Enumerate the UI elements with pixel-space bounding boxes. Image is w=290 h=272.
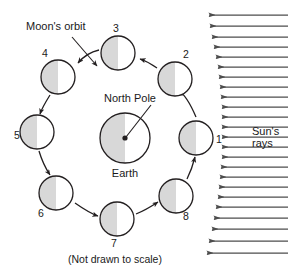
moon-number-label-1: 1 — [216, 133, 222, 145]
earth-label: Earth — [112, 167, 138, 179]
moon-number-label-2: 2 — [183, 48, 189, 60]
earth-shaded-half — [100, 113, 125, 163]
moon-shaded-half-6 — [39, 176, 56, 210]
moon-number-label-7: 7 — [111, 237, 117, 249]
orbit-arrow-2-to-3 — [140, 59, 157, 68]
moon-position-5: 5 — [14, 115, 54, 149]
orbit-arrow-4-to-5 — [40, 95, 50, 114]
suns-rays-label-line1: Sun's — [252, 125, 280, 137]
not-to-scale-note: (Not drawn to scale) — [68, 253, 162, 265]
moon-position-3: 3 — [101, 22, 135, 70]
diagram-canvas: 12345678 Moon's orbit North Pole Earth S… — [0, 0, 290, 272]
moon-number-label-6: 6 — [38, 207, 44, 219]
orbit-arrow-8-to-1 — [187, 157, 195, 179]
moon-shaded-half-3 — [101, 36, 118, 70]
moon-shaded-half-4 — [41, 60, 58, 94]
moon-shaded-half-7 — [100, 202, 117, 236]
north-pole-label: North Pole — [104, 92, 156, 104]
orbit-arrow-5-to-6 — [39, 151, 50, 175]
moon-phases-diagram: 12345678 Moon's orbit North Pole Earth S… — [0, 0, 290, 272]
moon-orbit-label: Moon's orbit — [26, 20, 86, 32]
moon-number-label-8: 8 — [183, 210, 189, 222]
moon-number-label-3: 3 — [113, 22, 119, 34]
orbit-arrow-6-to-7 — [75, 203, 98, 216]
earth-body — [100, 113, 150, 163]
moon-shaded-half-8 — [159, 179, 176, 213]
moon-position-1: 1 — [179, 121, 222, 155]
moon-number-label-5: 5 — [14, 129, 20, 141]
moon-shaded-half-1 — [179, 121, 196, 155]
moon-shaded-half-5 — [20, 115, 37, 149]
moon-number-label-4: 4 — [42, 47, 48, 59]
suns-rays-label-line2: rays — [252, 137, 273, 149]
moon-position-2: 2 — [158, 48, 192, 96]
orbit-arrow-7-to-8 — [136, 202, 158, 214]
moon-position-7: 7 — [100, 202, 134, 249]
moon-position-4: 4 — [41, 47, 75, 94]
moon-shaded-half-2 — [158, 62, 175, 96]
moon-position-6: 6 — [38, 176, 73, 219]
moon-position-8: 8 — [159, 179, 193, 222]
